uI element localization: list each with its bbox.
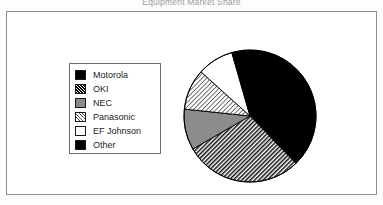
plot-frame: Motorola OKI NEC Panasonic EF Johnson O [6, 11, 377, 195]
pie-chart-svg [182, 48, 318, 184]
legend-item-label: EF Johnson [93, 126, 141, 136]
legend-item-label: Motorola [93, 70, 128, 80]
legend-swatch-icon [75, 98, 86, 108]
legend-swatch-icon [75, 126, 86, 136]
legend-item-label: Other [93, 140, 116, 150]
legend-item-motorola[interactable]: Motorola [75, 68, 155, 82]
legend-item-ef-johnson[interactable]: EF Johnson [75, 124, 155, 138]
legend-item-label: Panasonic [93, 112, 135, 122]
chart-legend: Motorola OKI NEC Panasonic EF Johnson O [69, 63, 161, 154]
legend-swatch-icon [75, 140, 86, 150]
legend-item-panasonic[interactable]: Panasonic [75, 110, 155, 124]
legend-item-label: NEC [93, 98, 112, 108]
legend-item-label: OKI [93, 84, 109, 94]
legend-item-nec[interactable]: NEC [75, 96, 155, 110]
legend-swatch-icon [75, 112, 86, 122]
page-title: Equipment Market Share [0, 0, 383, 8]
legend-swatch-icon [75, 84, 86, 94]
legend-item-other[interactable]: Other [75, 138, 155, 152]
legend-swatch-icon [75, 70, 86, 80]
legend-item-oki[interactable]: OKI [75, 82, 155, 96]
pie-chart [182, 48, 318, 184]
chart-figure: Equipment Market Share Motorola OKI NEC … [0, 0, 383, 205]
